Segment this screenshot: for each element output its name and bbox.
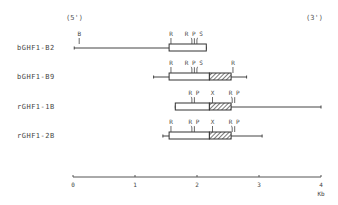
scale-tick-label: 0 <box>71 181 75 188</box>
restriction-site-label: R <box>169 30 173 37</box>
restriction-site-label: R P <box>229 118 240 125</box>
coding-region-box <box>169 132 209 139</box>
hatched-region <box>209 132 231 139</box>
restriction-site-label: B <box>77 30 81 37</box>
restriction-site-label: R P <box>188 89 199 96</box>
restriction-site-label: R P <box>229 89 240 96</box>
restriction-site-tick <box>231 97 232 103</box>
restriction-site-label: R P S <box>185 59 203 66</box>
restriction-site-tick <box>191 126 192 132</box>
restriction-site-label: X <box>211 118 215 125</box>
restriction-site-tick <box>191 38 192 44</box>
restriction-site-tick <box>191 67 192 73</box>
scale-unit-label: Kb <box>317 190 325 197</box>
restriction-site-label: R P S <box>185 30 203 37</box>
construct-map: BRR P SRR P SRR PXR PRR PXR P01234Kb <box>0 0 338 205</box>
scale-tick-label: 3 <box>257 181 261 188</box>
coding-region-box <box>175 103 209 110</box>
restriction-site-label: X <box>211 89 215 96</box>
hatched-region <box>209 73 231 80</box>
restriction-site-label: R <box>169 118 173 125</box>
restriction-site-label: R <box>169 59 173 66</box>
restriction-site-tick <box>191 97 192 103</box>
hatched-region <box>209 103 231 110</box>
restriction-site-tick <box>197 38 198 44</box>
scale-tick-label: 1 <box>133 181 137 188</box>
coding-region-box <box>169 44 206 51</box>
restriction-site-label: R P <box>188 118 199 125</box>
scale-tick-label: 4 <box>319 181 323 188</box>
restriction-site-tick <box>197 67 198 73</box>
restriction-site-tick <box>231 126 232 132</box>
coding-region-box <box>169 73 209 80</box>
restriction-site-label: R <box>231 59 235 66</box>
scale-tick-label: 2 <box>195 181 199 188</box>
